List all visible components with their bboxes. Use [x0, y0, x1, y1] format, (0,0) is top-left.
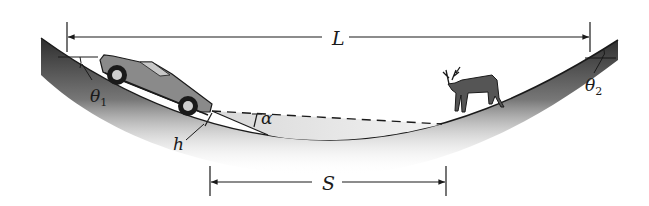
label-alpha: α — [261, 110, 272, 127]
theta1-symbol: θ — [90, 86, 100, 106]
label-h: h — [173, 136, 184, 153]
theta2-subscript: 2 — [595, 85, 602, 98]
label-L: L — [328, 29, 349, 48]
label-theta2: θ2 — [585, 77, 602, 97]
theta1-arc — [80, 57, 81, 68]
diagram-canvas: L S h α θ1 θ2 — [0, 0, 649, 206]
label-theta1: θ1 — [90, 88, 107, 108]
label-S: S — [318, 174, 339, 193]
theta1-subscript: 1 — [100, 96, 107, 109]
theta2-symbol: θ — [585, 75, 595, 95]
ground-mass — [41, 38, 618, 175]
